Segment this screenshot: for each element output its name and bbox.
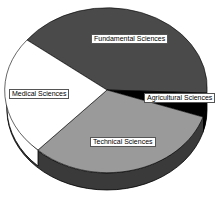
- label-agricultural: Agricultural Sciences: [144, 93, 215, 103]
- label-fundamental: Fundamental Sciences: [91, 34, 168, 44]
- label-medical: Medical Sciences: [9, 89, 69, 99]
- label-technical: Technical Sciences: [90, 137, 156, 147]
